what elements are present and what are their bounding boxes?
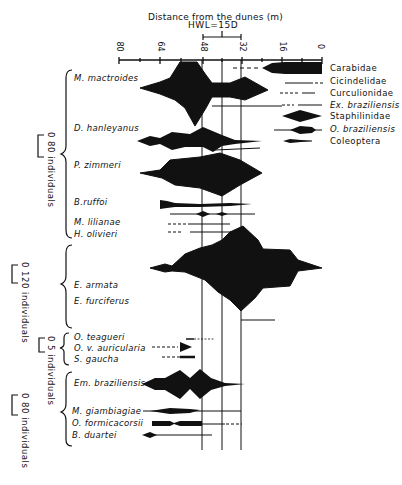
label-o-v-auricularia: O. v. auricularia (74, 343, 146, 353)
legend-o-braziliensis: O. braziliensis (330, 124, 395, 134)
label-o-formicacorsii: O. formicacorsii (72, 418, 143, 428)
em-braziliensis-kite (142, 369, 245, 399)
legend-symbols (274, 83, 324, 143)
group-braces (60, 70, 72, 446)
scale-label-3: 0 5 individuals (46, 336, 56, 405)
p-zimmeri-kite (140, 153, 262, 196)
legend-staphilinidae: Staphilinidae (330, 111, 391, 121)
label-b-duartei: B. duartei (72, 430, 117, 440)
b-ruffoi-kite (160, 200, 252, 209)
o-formicacorsii-kite (152, 421, 202, 426)
label-em-braziliensis: Em. braziliensis (74, 378, 145, 388)
label-o-teagueri: O. teagueri (74, 332, 125, 342)
label-m-lilianae: M. lilianae (74, 217, 121, 227)
legend-curculionidae: Curculionidae (330, 88, 393, 98)
label-s-gaucha: S. gaucha (74, 354, 119, 364)
label-m-giambiagiae: M. giambiagiae (72, 406, 141, 416)
legend-ex-braziliensis: Ex. braziliensis (330, 100, 400, 110)
scale-label-2: 0 120 individuals (20, 262, 30, 343)
legend-carabidae: Carabidae (330, 63, 377, 73)
m-mactroides-kite (140, 62, 268, 126)
scale-label-1: 0 80 individuals (46, 132, 56, 207)
legend-cicindelidae: Cicindelidae (330, 76, 387, 86)
label-m-mactroides: M. mactroides (74, 73, 138, 83)
label-d-hanleyanus: D. hanleyanus (74, 123, 139, 133)
label-e-armata: E. armata (74, 280, 118, 290)
label-h-olivieri: H. olivieri (74, 229, 118, 239)
hwl-bracket (203, 31, 241, 40)
label-e-furciferus: E. furciferus (74, 296, 129, 306)
o-v-auricularia-kite (180, 342, 192, 352)
carabidae-kite (262, 62, 322, 74)
scale-label-4: 0 80 individuals (20, 393, 30, 468)
label-p-zimmeri: P. zimmeri (74, 160, 121, 170)
e-armata-kite (150, 226, 322, 311)
label-b-ruffoi: B.ruffoi (74, 197, 107, 207)
legend-coleoptera: Coleoptera (330, 136, 381, 146)
